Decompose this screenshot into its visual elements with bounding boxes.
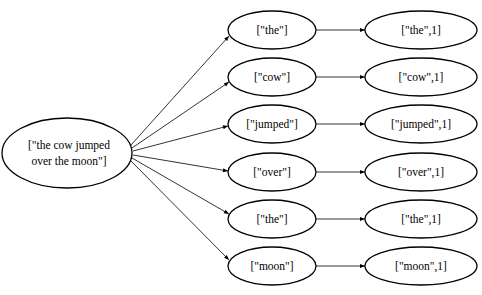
input-to-split-edges xyxy=(131,36,229,260)
split-node-label: ["cow"] xyxy=(254,71,290,83)
edge-input-split-4 xyxy=(132,158,229,214)
map-node: ["cow",1] xyxy=(365,58,477,96)
split-node: ["the"] xyxy=(228,200,316,238)
split-node: ["cow"] xyxy=(228,58,316,96)
map-node-label: ["the",1] xyxy=(401,213,441,226)
input-node-line2: over the moon"] xyxy=(32,155,107,167)
edge-input-split-0 xyxy=(131,36,229,145)
split-node-label: ["the"] xyxy=(256,213,287,225)
map-node-label: ["the",1] xyxy=(401,24,441,37)
split-node: ["over"] xyxy=(228,153,316,191)
split-to-map-edges xyxy=(316,30,365,266)
wordcount-diagram: ["the cow jumped over the moon"] ["the"]… xyxy=(0,0,482,295)
map-node-label: ["cow",1] xyxy=(399,71,444,84)
input-node-line1: ["the cow jumped xyxy=(28,139,110,152)
input-node: ["the cow jumped over the moon"] xyxy=(2,118,132,188)
edge-input-split-2 xyxy=(133,126,228,151)
split-nodes: ["the"] ["cow"] ["jumped"] ["over"] ["th… xyxy=(228,11,316,285)
map-node-label: ["moon",1] xyxy=(395,260,447,273)
split-node: ["jumped"] xyxy=(228,105,316,143)
input-node-ellipse xyxy=(2,118,132,188)
split-node-label: ["jumped"] xyxy=(246,118,298,131)
split-node-label: ["the"] xyxy=(256,24,287,36)
map-node: ["the",1] xyxy=(365,11,477,49)
edge-input-split-5 xyxy=(131,161,229,260)
map-node: ["jumped",1] xyxy=(365,105,477,143)
map-node: ["moon",1] xyxy=(365,247,477,285)
split-node-label: ["over"] xyxy=(253,166,290,178)
map-node: ["over",1] xyxy=(365,153,477,191)
map-node-label: ["jumped",1] xyxy=(391,118,451,131)
map-node-label: ["over",1] xyxy=(398,166,444,179)
split-node-label: ["moon"] xyxy=(250,260,293,272)
split-node: ["the"] xyxy=(228,11,316,49)
map-nodes: ["the",1] ["cow",1] ["jumped",1] ["over"… xyxy=(365,11,477,285)
edge-input-split-3 xyxy=(133,155,228,171)
split-node: ["moon"] xyxy=(228,247,316,285)
map-node: ["the",1] xyxy=(365,200,477,238)
